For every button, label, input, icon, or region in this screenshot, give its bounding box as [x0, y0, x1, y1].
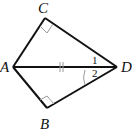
figure-canvas: [0, 0, 135, 134]
segment-AC: [13, 18, 45, 67]
angle-label-2: 2: [92, 68, 98, 79]
point-label-B: B: [40, 117, 49, 132]
segment-AB: [13, 67, 47, 108]
point-label-A: A: [0, 60, 9, 75]
angle-label-1: 1: [92, 55, 98, 66]
geometry-diagram: C A D B 1 2: [0, 0, 135, 134]
point-label-D: D: [121, 60, 132, 75]
segment-BD: [47, 67, 117, 108]
right-angle-mark-C: [40, 24, 53, 33]
point-label-C: C: [38, 1, 48, 16]
angle-arc-2: [84, 70, 86, 85]
segment-CD: [45, 18, 117, 67]
